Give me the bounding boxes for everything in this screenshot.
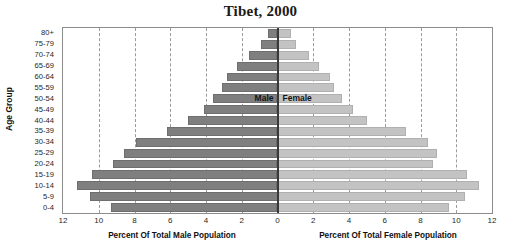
y-tick-label: 80+: [41, 29, 54, 37]
x-tick-label: 4: [204, 216, 208, 225]
x-tick-label: 10: [452, 216, 461, 225]
x-axis-title-male: Percent Of Total Male Population: [108, 231, 236, 240]
bar-male: [136, 138, 277, 147]
x-tick-label: 10: [94, 216, 103, 225]
bar-male: [227, 73, 277, 82]
bar-male: [92, 170, 278, 179]
bar-female: [278, 51, 309, 60]
y-tick-label: 70-74: [35, 51, 54, 59]
bar-female: [278, 105, 353, 114]
y-tick-label: 55-59: [35, 84, 54, 92]
x-tick-label: 12: [488, 216, 497, 225]
y-axis-tick-labels: 80+75-7970-7465-6960-6455-5950-5445-4940…: [0, 27, 58, 214]
y-tick-label: 50-54: [35, 95, 54, 103]
x-axis-title-female: Percent Of Total Female Population: [319, 231, 457, 240]
x-tick-label: 0: [275, 216, 279, 225]
x-tick-label: 8: [132, 216, 136, 225]
bar-male: [124, 149, 278, 158]
series-label-female: Female: [283, 93, 312, 103]
bar-male: [204, 105, 277, 114]
plot-area: MaleFemale: [62, 27, 493, 214]
bar-female: [278, 73, 331, 82]
y-tick-label: 45-49: [35, 106, 54, 114]
bar-male: [237, 62, 277, 71]
bar-male: [222, 83, 277, 92]
y-tick-label: 15-19: [35, 171, 54, 179]
bar-female: [278, 62, 319, 71]
series-label-male: Male: [255, 93, 274, 103]
bar-female: [278, 160, 434, 169]
bar-female: [278, 29, 291, 38]
x-tick-label: 2: [311, 216, 315, 225]
x-axis-tick-labels: 12108642024681012: [62, 216, 493, 228]
y-tick-label: 40-44: [35, 117, 54, 125]
bar-female: [278, 170, 467, 179]
y-tick-label: 25-29: [35, 149, 54, 157]
x-tick-label: 6: [168, 216, 172, 225]
y-tick-label: 0-4: [43, 204, 54, 212]
chart-title: Tibet, 2000: [0, 3, 521, 20]
bar-male: [249, 51, 278, 60]
bar-male: [261, 40, 278, 49]
bar-female: [278, 149, 438, 158]
bar-female: [278, 40, 297, 49]
bar-female: [278, 192, 466, 201]
bar-female: [278, 127, 407, 136]
population-pyramid-chart: Tibet, 2000 Age Group 80+75-7970-7465-69…: [0, 0, 521, 249]
y-tick-label: 10-14: [35, 182, 54, 190]
y-tick-label: 20-24: [35, 160, 54, 168]
x-tick-label: 6: [383, 216, 387, 225]
bar-male: [188, 116, 277, 125]
bar-male: [167, 127, 278, 136]
y-tick-label: 5-9: [43, 193, 54, 201]
y-tick-label: 35-39: [35, 127, 54, 135]
y-tick-label: 30-34: [35, 138, 54, 146]
bar-male: [111, 203, 277, 212]
y-tick-label: 75-79: [35, 40, 54, 48]
bar-female: [278, 181, 480, 190]
y-tick-label: 65-69: [35, 62, 54, 70]
zero-axis-line: [277, 28, 279, 213]
bar-female: [278, 83, 334, 92]
bar-male: [77, 181, 277, 190]
x-tick-label: 2: [240, 216, 244, 225]
bar-female: [278, 116, 367, 125]
bar-male: [113, 160, 277, 169]
bar-male: [90, 192, 278, 201]
x-tick-label: 12: [59, 216, 68, 225]
x-tick-label: 8: [418, 216, 422, 225]
bar-female: [278, 138, 428, 147]
y-tick-label: 60-64: [35, 73, 54, 81]
bar-female: [278, 203, 450, 212]
x-tick-label: 4: [347, 216, 351, 225]
